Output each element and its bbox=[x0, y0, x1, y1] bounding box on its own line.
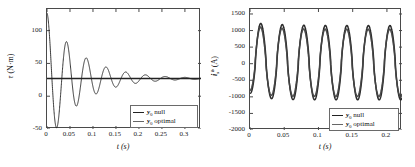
torque-yaxis-symbol: τ bbox=[6, 76, 15, 79]
current-ytick-neg1500: -1500 bbox=[207, 109, 245, 116]
legend-item-y0-null: y0 null bbox=[332, 111, 395, 120]
current-xtick-0: 0 bbox=[247, 132, 251, 139]
current-ytick-1500: 1500 bbox=[207, 9, 245, 16]
torque-xtick-005: 0.05 bbox=[63, 131, 75, 138]
current-xtick-4: 0.2 bbox=[382, 132, 391, 139]
legend-label-y0-null: y0 null bbox=[346, 112, 364, 119]
legend-label-y0-optimal: y0 optimal bbox=[147, 118, 176, 125]
torque-ytick-50: 50 bbox=[22, 59, 42, 66]
current-ytick-neg1000: -1000 bbox=[207, 92, 245, 99]
two-panel-figure: 100 50 0 -50 0 0.05 0.1 0.15 0.2 0.25 0.… bbox=[0, 0, 415, 167]
torque-xtick-03: 0.3 bbox=[180, 131, 189, 138]
torque-xtick-01: 0.1 bbox=[88, 131, 97, 138]
current-xtick-1: 0.05 bbox=[277, 132, 289, 139]
legend-line-swatch-null bbox=[332, 115, 343, 116]
legend-line-swatch-null bbox=[133, 112, 144, 113]
torque-panel: 100 50 0 -50 0 0.05 0.1 0.15 0.2 0.25 0.… bbox=[0, 0, 207, 167]
current-yaxis-units: (A) bbox=[210, 56, 219, 67]
legend-label-y0-null: y0 null bbox=[147, 109, 165, 116]
current-ytick-neg2000: -2000 bbox=[207, 126, 245, 133]
legend-line-swatch-optimal bbox=[332, 124, 343, 125]
legend-item-y0-null: y0 null bbox=[133, 108, 194, 117]
legend-line-swatch-optimal bbox=[133, 121, 144, 122]
torque-ytick-100: 100 bbox=[22, 26, 42, 33]
torque-yaxis-label: τ (N·m) bbox=[7, 44, 15, 88]
torque-ytick-neg50: -50 bbox=[22, 125, 42, 132]
torque-xtick-025: 0.25 bbox=[155, 131, 167, 138]
legend-item-y0-optimal: y0 optimal bbox=[332, 120, 395, 129]
torque-ytick-0: 0 bbox=[22, 92, 42, 99]
torque-xaxis-label: t (s) bbox=[117, 143, 130, 151]
torque-yaxis-units: (N·m) bbox=[6, 54, 15, 74]
legend-label-y0-optimal: y0 optimal bbox=[346, 121, 375, 128]
torque-legend: y0 null y0 optimal bbox=[130, 105, 198, 128]
torque-xtick-0: 0 bbox=[44, 131, 48, 138]
current-legend: y0 null y0 optimal bbox=[329, 108, 399, 131]
torque-xtick-015: 0.15 bbox=[109, 131, 121, 138]
current-panel: -2000-1500-1000-500050010001500 00.050.1… bbox=[207, 0, 415, 167]
legend-item-y0-optimal: y0 optimal bbox=[133, 117, 194, 126]
current-xtick-2: 0.1 bbox=[313, 132, 322, 139]
current-ytick-1000: 1000 bbox=[207, 26, 245, 33]
current-xtick-3: 0.15 bbox=[346, 132, 358, 139]
torque-xtick-02: 0.2 bbox=[134, 131, 143, 138]
current-yaxis-symbol: isb bbox=[210, 67, 219, 76]
current-xaxis-label: t (s) bbox=[319, 143, 332, 151]
current-yaxis-label: isb (A) bbox=[211, 44, 219, 88]
